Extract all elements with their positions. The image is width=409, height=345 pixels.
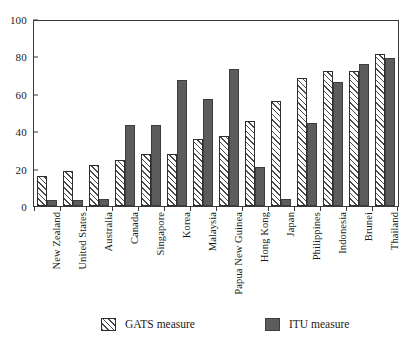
- y-tick-label: 80: [16, 52, 27, 63]
- bar-gats: [271, 101, 281, 206]
- x-axis-label: Philippines: [311, 212, 322, 260]
- bar-gats: [375, 54, 385, 206]
- x-tick-mark: [242, 207, 243, 211]
- x-tick-mark: [138, 207, 139, 211]
- x-tick-mark: [216, 207, 217, 211]
- y-tick-label: 60: [16, 89, 27, 100]
- y-tick-label: 0: [21, 202, 27, 213]
- x-tick-mark: [112, 207, 113, 211]
- bar-group: [372, 21, 398, 206]
- x-axis-label: Indonesia: [337, 212, 348, 254]
- bar-group: [242, 21, 268, 206]
- x-axis-label: Singapore: [155, 212, 166, 255]
- x-axis-label: Korea: [181, 212, 192, 238]
- legend-label-gats: GATS measure: [125, 318, 195, 330]
- bar-group: [268, 21, 294, 206]
- bar-group: [346, 21, 372, 206]
- bar-gats: [245, 121, 255, 206]
- bar-itu: [333, 82, 343, 206]
- y-tick-mark: [33, 94, 38, 95]
- bar-group: [216, 21, 242, 206]
- y-tick-mark: [33, 20, 38, 21]
- bar-gats: [323, 71, 333, 206]
- bar-gats: [193, 139, 203, 206]
- x-tick-mark: [397, 207, 398, 211]
- x-axis-label: Canada: [129, 212, 140, 244]
- x-axis-label: Thailand: [389, 212, 400, 250]
- legend-item-itu: ITU measure: [265, 316, 349, 332]
- x-tick-mark: [60, 207, 61, 211]
- bar-itu: [99, 199, 109, 206]
- y-axis: 020406080100: [0, 20, 27, 207]
- x-tick-mark: [320, 207, 321, 211]
- y-tick-label: 100: [10, 15, 27, 26]
- bar-gats: [349, 71, 359, 206]
- bar-itu: [281, 199, 291, 206]
- bar-group: [34, 21, 60, 206]
- bar-itu: [125, 125, 135, 206]
- bar-gats: [297, 78, 307, 206]
- x-axis-label: Australia: [103, 212, 114, 251]
- solid-swatch-icon: [265, 318, 280, 331]
- x-axis-label: Papua New Guinea: [233, 212, 244, 295]
- bar-group: [112, 21, 138, 206]
- legend-item-gats: GATS measure: [101, 316, 195, 332]
- bar-itu: [255, 167, 265, 206]
- x-tick-mark: [190, 207, 191, 211]
- hatched-swatch-icon: [101, 318, 116, 331]
- bar-itu: [229, 69, 239, 206]
- bar-gats: [89, 165, 99, 206]
- x-tick-mark: [164, 207, 165, 211]
- bar-gats: [219, 136, 229, 206]
- chart-legend: GATS measure ITU measure: [33, 316, 399, 336]
- x-axis-label: Hong Kong: [259, 212, 270, 262]
- y-tick-mark: [33, 169, 38, 170]
- bar-itu: [359, 64, 369, 206]
- bar-gats: [115, 160, 125, 206]
- bar-group: [190, 21, 216, 206]
- x-tick-mark: [86, 207, 87, 211]
- bar-group: [60, 21, 86, 206]
- bar-itu: [151, 125, 161, 206]
- bar-itu: [73, 200, 83, 206]
- bar-group: [138, 21, 164, 206]
- x-tick-mark: [294, 207, 295, 211]
- bar-gats: [141, 154, 151, 206]
- y-tick-mark: [33, 57, 38, 58]
- x-tick-mark: [346, 207, 347, 211]
- bar-gats: [167, 154, 177, 206]
- bar-group: [164, 21, 190, 206]
- x-tick-mark: [34, 207, 35, 211]
- bar-group: [320, 21, 346, 206]
- x-axis-label: Brunei: [363, 212, 374, 241]
- bar-gats: [37, 176, 47, 206]
- x-axis-label: Japan: [285, 212, 296, 236]
- bar-itu: [307, 123, 317, 206]
- x-axis-label: New Zealand: [51, 212, 62, 269]
- bar-group: [86, 21, 112, 206]
- x-tick-mark: [268, 207, 269, 211]
- bar-itu: [203, 99, 213, 206]
- legend-label-itu: ITU measure: [289, 318, 349, 330]
- y-tick-label: 20: [16, 164, 27, 175]
- bar-chart: 020406080100 New ZealandUnited StatesAus…: [0, 0, 409, 345]
- x-axis-labels: New ZealandUnited StatesAustraliaCanadaS…: [34, 212, 398, 300]
- y-tick-label: 40: [16, 127, 27, 138]
- bar-itu: [47, 200, 57, 206]
- bar-gats: [63, 171, 73, 206]
- bar-group: [294, 21, 320, 206]
- bar-itu: [177, 80, 187, 206]
- y-tick-mark: [33, 132, 38, 133]
- bar-itu: [385, 58, 395, 206]
- x-axis-label: United States: [77, 212, 88, 270]
- x-tick-mark: [372, 207, 373, 211]
- bars-container: [34, 21, 398, 206]
- x-axis-label: Malaysia: [207, 212, 218, 251]
